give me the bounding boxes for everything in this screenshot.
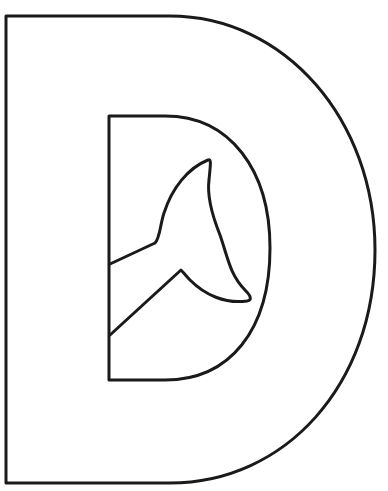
letter-d-inner-counter xyxy=(109,116,270,380)
coloring-page xyxy=(0,0,388,491)
